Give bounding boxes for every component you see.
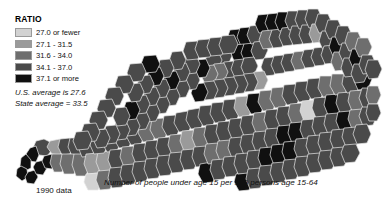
map-county (73, 131, 92, 150)
legend-label: 31.6 - 34.0 (36, 51, 72, 60)
legend-row: 31.6 - 34.0 (15, 50, 135, 61)
year-label: 1990 data (36, 186, 72, 195)
legend-label: 34.1 - 37.0 (36, 63, 72, 72)
legend-row: 27.1 - 31.5 (15, 39, 135, 50)
legend-swatch (15, 40, 32, 49)
legend-row: 27.0 or fewer (15, 27, 135, 38)
legend-row: 37.1 or more (15, 73, 135, 84)
map-county (365, 60, 382, 79)
map-county (366, 86, 381, 104)
kentucky-choropleth-figure: RATIO 27.0 or fewer27.1 - 31.531.6 - 34.… (0, 0, 390, 203)
map-county (353, 124, 371, 144)
legend-row: 34.1 - 37.0 (15, 62, 135, 73)
legend-swatch (15, 28, 32, 37)
legend-swatch (15, 74, 32, 83)
state-average-note: State average = 33.5 (15, 99, 135, 110)
map-legend: RATIO 27.0 or fewer27.1 - 31.531.6 - 34.… (15, 14, 135, 109)
legend-notes: U.S. average is 27.6 State average = 33.… (15, 88, 135, 109)
legend-label: 37.1 or more (36, 74, 79, 83)
legend-title: RATIO (15, 14, 135, 24)
map-county (219, 35, 238, 54)
map-county (355, 38, 372, 57)
map-county (341, 144, 360, 163)
us-average-note: U.S. average is 27.6 (15, 88, 135, 99)
legend-label: 27.1 - 31.5 (36, 40, 72, 49)
legend-swatch (15, 51, 32, 60)
legend-label: 27.0 or fewer (36, 28, 80, 37)
legend-class-list: 27.0 or fewer27.1 - 31.531.6 - 34.034.1 … (15, 27, 135, 84)
map-caption: Number of people under age 15 per 100 pe… (104, 178, 318, 187)
legend-swatch (15, 63, 32, 72)
map-county (366, 104, 381, 121)
